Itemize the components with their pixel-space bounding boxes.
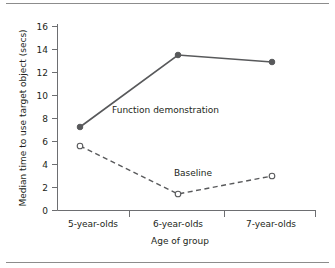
data-point-function-demonstration-1 (175, 52, 181, 58)
figure-container: 0 2 4 6 8 10 12 14 16 5-year-olds 6-year… (0, 0, 335, 268)
x-axis-title: Age of group (151, 236, 209, 246)
y-tick-label-4: 4 (42, 160, 48, 170)
y-tick-label-12: 12 (37, 68, 48, 78)
x-category-label-1: 6-year-olds (153, 219, 203, 229)
series-line-function-demonstration (80, 55, 272, 127)
x-category-label-0: 5-year-olds (68, 219, 118, 229)
x-axis-ticks (130, 211, 316, 218)
data-point-baseline-0 (77, 143, 83, 149)
y-tick-label-10: 10 (37, 91, 49, 101)
data-point-function-demonstration-0 (77, 124, 83, 130)
y-tick-label-16: 16 (37, 22, 49, 32)
data-point-baseline-1 (175, 191, 181, 197)
y-tick-label-0: 0 (42, 206, 48, 216)
x-axis-category-labels: 5-year-olds 6-year-olds 7-year-olds (68, 219, 296, 229)
line-chart: 0 2 4 6 8 10 12 14 16 5-year-olds 6-year… (0, 0, 335, 268)
series-annotation-function-demonstration: Function demonstration (112, 105, 219, 115)
series-markers-function-demonstration (77, 52, 275, 130)
y-tick-label-8: 8 (42, 114, 48, 124)
data-point-function-demonstration-2 (269, 59, 275, 65)
y-axis-ticks (52, 27, 58, 211)
x-category-label-2: 7-year-olds (246, 219, 296, 229)
y-tick-label-2: 2 (42, 183, 48, 193)
y-axis-tick-labels: 0 2 4 6 8 10 12 14 16 (37, 22, 49, 216)
y-tick-label-14: 14 (37, 45, 49, 55)
y-axis-title: Median time to use target object (secs) (18, 29, 28, 206)
data-point-baseline-2 (269, 173, 275, 179)
figure-bottom-rule (6, 262, 329, 263)
series-annotation-baseline: Baseline (174, 168, 213, 178)
figure-top-rule (6, 3, 329, 4)
y-tick-label-6: 6 (42, 137, 48, 147)
